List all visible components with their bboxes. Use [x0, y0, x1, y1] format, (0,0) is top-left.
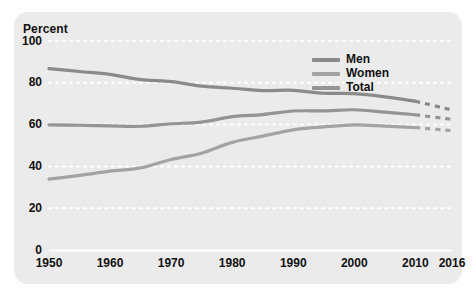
chart-legend: MenWomenTotal — [312, 53, 408, 95]
legend-swatch-icon — [312, 72, 340, 76]
y-tick-label: 80 — [8, 75, 42, 89]
plot-area — [0, 0, 476, 296]
legend-label: Total — [346, 81, 374, 94]
legend-item-total: Total — [312, 81, 408, 94]
y-tick-label: 20 — [8, 201, 42, 215]
x-tick-label: 1970 — [149, 256, 193, 270]
series-line-men-projected — [415, 101, 452, 110]
legend-swatch-icon — [312, 58, 340, 62]
legend-swatch-icon — [312, 86, 340, 90]
y-tick-label: 40 — [8, 159, 42, 173]
x-tick-label: 2000 — [332, 256, 376, 270]
y-tick-label: 0 — [8, 243, 42, 257]
series-line-women-projected — [415, 128, 452, 131]
y-tick-label: 60 — [8, 117, 42, 131]
series-line-women — [49, 125, 415, 179]
legend-label: Women — [346, 67, 389, 80]
x-tick-label: 1980 — [210, 256, 254, 270]
line-chart-svg — [0, 0, 476, 296]
legend-item-women: Women — [312, 67, 408, 80]
legend-label: Men — [346, 53, 370, 66]
legend-item-men: Men — [312, 53, 408, 66]
x-tick-label: 1960 — [88, 256, 132, 270]
series-line-total-projected — [415, 115, 452, 120]
x-tick-label: 1990 — [271, 256, 315, 270]
x-tick-label: 1950 — [27, 256, 71, 270]
figure-root: Percent 020406080100 1950196019701980199… — [0, 0, 476, 296]
x-tick-label: 2016 — [430, 256, 474, 270]
y-tick-label: 100 — [8, 34, 42, 48]
